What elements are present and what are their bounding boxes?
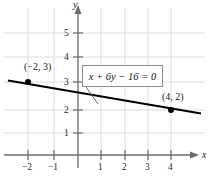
x-tick-label-3: 3 — [145, 163, 150, 173]
x-tick-label-2: 2 — [122, 163, 127, 173]
y-axis-label: y — [73, 0, 77, 10]
x-tick-label-neg2: −2 — [22, 163, 32, 173]
graph-figure: −2 −1 1 2 3 4 1 2 3 4 5 x y (−2, 3) (4, … — [0, 0, 211, 187]
data-point-b — [168, 107, 174, 113]
y-tick-label-3: 3 — [64, 78, 69, 88]
y-tick-label-1: 1 — [64, 129, 69, 139]
y-tick-label-2: 2 — [64, 106, 69, 116]
x-tick-label-1: 1 — [98, 163, 103, 173]
y-tick-label-5: 5 — [64, 29, 69, 39]
x-tick-label-4: 4 — [168, 163, 173, 173]
point-label-a: (−2, 3) — [24, 62, 51, 72]
x-axis-label: x — [202, 150, 206, 160]
point-label-b: (4, 2) — [162, 92, 184, 102]
y-tick-label-4: 4 — [64, 53, 69, 63]
equation-label: x + 6y − 16 = 0 — [89, 71, 156, 82]
x-tick-label-neg1: −1 — [48, 163, 58, 173]
data-point-a — [25, 79, 31, 85]
x-axis — [4, 150, 199, 160]
equation-callout-box: x + 6y − 16 = 0 — [82, 65, 163, 87]
